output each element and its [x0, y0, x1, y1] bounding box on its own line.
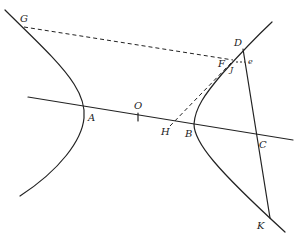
label-c: C	[259, 139, 267, 150]
hyperbola-diagram: G D F J e O A H B C K	[0, 0, 300, 235]
label-a: A	[87, 112, 95, 123]
label-g: G	[20, 13, 28, 24]
label-e: e	[248, 57, 253, 66]
label-d: D	[233, 37, 242, 48]
dashed-line-g-f	[24, 27, 233, 60]
left-hyperbola-branch	[5, 10, 84, 196]
dashed-line-h-f	[170, 63, 231, 126]
label-f: F	[217, 58, 226, 69]
label-h: H	[160, 126, 170, 137]
line-d-k	[243, 49, 270, 218]
label-b: B	[184, 128, 192, 139]
label-o: O	[134, 100, 142, 111]
label-k: K	[256, 220, 265, 231]
right-hyperbola-branch	[194, 22, 285, 232]
